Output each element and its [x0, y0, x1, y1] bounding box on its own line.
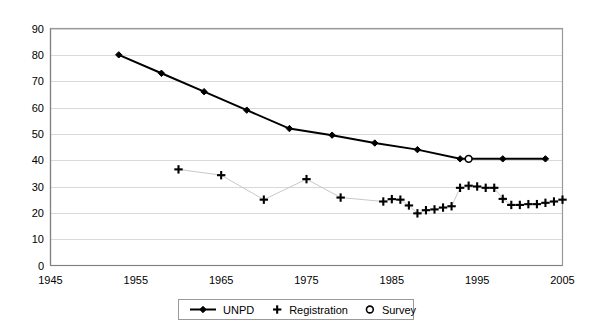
y-tick-label: 40 [32, 154, 44, 166]
y-tick-label: 80 [32, 49, 44, 61]
series-line-registration [179, 169, 563, 213]
data-point-diamond [500, 156, 506, 162]
y-tick-label: 90 [32, 23, 44, 35]
x-tick-labels: 1945195519651975198519952005 [38, 274, 574, 286]
data-point-diamond [542, 156, 548, 162]
data-point-diamond [286, 125, 292, 131]
chart-container: 0102030405060708090 19451955196519751985… [0, 0, 590, 329]
x-tick-label: 1985 [380, 274, 404, 286]
x-tick-label: 1975 [294, 274, 318, 286]
line-chart: 0102030405060708090 19451955196519751985… [0, 0, 590, 329]
y-tick-label: 50 [32, 128, 44, 140]
series-unpd [116, 52, 549, 162]
y-tick-label: 30 [32, 181, 44, 193]
y-tick-label: 10 [32, 233, 44, 245]
data-point-circle [366, 306, 373, 313]
plot-area-border [51, 29, 563, 266]
series-line-unpd [119, 55, 546, 159]
data-point-diamond [329, 132, 335, 138]
x-tick-label: 1995 [465, 274, 489, 286]
data-point-diamond [457, 156, 463, 162]
x-tick-label: 1965 [209, 274, 233, 286]
x-tick-label: 1955 [124, 274, 148, 286]
data-point-diamond [201, 89, 207, 95]
legend-label: Registration [289, 304, 348, 316]
data-point-diamond [244, 107, 250, 113]
data-point-circle [465, 155, 472, 162]
y-tick-label: 60 [32, 102, 44, 114]
y-tick-labels: 0102030405060708090 [32, 23, 44, 272]
y-tick-label: 70 [32, 75, 44, 87]
legend-label: UNPD [223, 304, 254, 316]
gridlines [51, 30, 563, 240]
y-tick-label: 20 [32, 207, 44, 219]
series-registration [174, 165, 566, 217]
x-tick-label: 2005 [550, 274, 574, 286]
data-point-diamond [414, 146, 420, 152]
legend: UNPDRegistrationSurvey [179, 300, 417, 320]
data-point-diamond [158, 70, 164, 76]
series-survey [465, 155, 472, 162]
y-tick-label: 0 [38, 260, 44, 272]
data-point-diamond [372, 140, 378, 146]
x-tick-label: 1945 [38, 274, 62, 286]
data-point-diamond [116, 52, 122, 58]
legend-label: Survey [382, 304, 417, 316]
